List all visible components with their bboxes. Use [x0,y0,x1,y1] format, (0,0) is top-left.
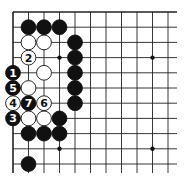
stone-disc [21,35,36,50]
black-stone [21,126,36,141]
stone-disc [68,35,83,50]
black-stone [52,20,67,35]
black-stone [21,157,36,172]
black-stone-move-3: 3 [6,111,21,126]
move-number-label: 1 [9,67,17,80]
black-stone [37,126,52,141]
white-stone-move-2: 2 [21,50,36,65]
star-point [57,147,61,151]
black-stone [52,126,67,141]
stone-disc [68,81,83,96]
white-stone [37,65,52,80]
black-stone-move-7: 7 [21,96,36,111]
black-stone [68,50,83,65]
black-stone [68,35,83,50]
stone-disc [21,20,36,35]
black-stone [68,96,83,111]
white-stone [37,35,52,50]
move-number-label: 6 [40,97,48,110]
white-stone [21,81,36,96]
stone-disc [52,126,67,141]
white-stone [21,35,36,50]
white-stone [21,111,36,126]
white-stone [37,111,52,126]
move-number-label: 4 [9,97,17,110]
go-board-diagram: 2154763 [0,0,187,177]
stone-disc [52,20,67,35]
stone-disc [68,65,83,80]
black-stone [68,81,83,96]
stone-disc [37,65,52,80]
black-stone-move-5: 5 [6,81,21,96]
stone-disc [68,96,83,111]
stone-disc [21,111,36,126]
star-point [57,55,61,59]
black-stone [52,111,67,126]
stone-disc [37,111,52,126]
stone-disc [37,20,52,35]
move-number-label: 2 [25,52,33,65]
white-stone-move-4: 4 [6,96,21,111]
move-number-label: 5 [9,82,17,95]
stone-disc [52,111,67,126]
stone-disc [21,126,36,141]
stone-disc [21,157,36,172]
black-stone-move-1: 1 [6,65,21,80]
move-number-label: 3 [9,112,17,125]
white-stone-move-6: 6 [37,96,52,111]
black-stone [21,20,36,35]
black-stone [37,20,52,35]
black-stone [68,65,83,80]
stone-disc [21,81,36,96]
star-point [150,55,154,59]
stone-disc [68,50,83,65]
stone-disc [37,126,52,141]
star-point [150,147,154,151]
stone-disc [37,35,52,50]
move-number-label: 7 [25,97,33,110]
